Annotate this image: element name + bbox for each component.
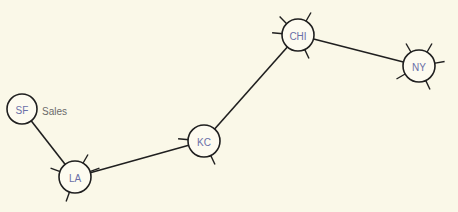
node-chi[interactable]: CHI [282, 19, 314, 51]
annotation-label: Sales [42, 106, 67, 117]
node-label: LA [69, 173, 82, 184]
edge-kc-chi [204, 35, 298, 141]
annotations-layer: Sales [42, 106, 67, 117]
edge-chi-ny [298, 35, 419, 66]
node-label: KC [197, 137, 211, 148]
node-label: SF [16, 105, 29, 116]
node-label: NY [412, 62, 426, 73]
ticks-layer [51, 12, 445, 201]
nodes-layer: SFLAKCCHINY [7, 19, 435, 193]
node-kc[interactable]: KC [188, 125, 220, 157]
node-ny[interactable]: NY [403, 50, 435, 82]
node-la[interactable]: LA [59, 161, 91, 193]
edge-la-kc [75, 141, 204, 177]
node-label: CHI [289, 31, 306, 42]
edges-layer [22, 35, 419, 177]
network-diagram: SFLAKCCHINY Sales [0, 0, 458, 212]
node-sf[interactable]: SF [7, 94, 37, 124]
